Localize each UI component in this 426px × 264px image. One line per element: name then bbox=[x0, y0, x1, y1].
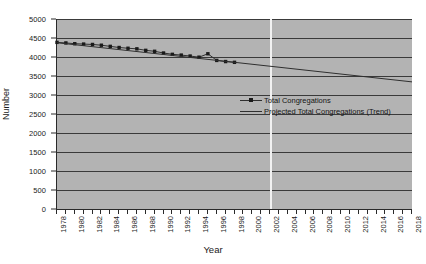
x-tick-mark bbox=[127, 210, 128, 214]
data-point-marker bbox=[100, 44, 103, 47]
x-tick-label: 1994 bbox=[201, 216, 210, 233]
x-tick-mark bbox=[92, 210, 93, 214]
x-tick-mark bbox=[109, 210, 110, 214]
x-tick-mark bbox=[136, 210, 137, 214]
x-tick-mark bbox=[100, 210, 101, 214]
data-point-marker bbox=[117, 46, 120, 49]
x-tick-label: 2000 bbox=[254, 216, 263, 233]
x-tick-mark bbox=[83, 210, 84, 214]
x-tick-mark bbox=[358, 210, 359, 214]
x-tick-label: 1980 bbox=[77, 216, 86, 233]
x-tick-label: 1988 bbox=[148, 216, 157, 233]
x-tick-mark bbox=[331, 210, 332, 214]
x-axis: 1978198019821984198619881990199219941996… bbox=[56, 210, 412, 264]
x-tick-mark bbox=[74, 210, 75, 214]
x-tick-label: 1996 bbox=[219, 216, 228, 233]
x-tick-mark bbox=[171, 210, 172, 214]
y-tick-label: 2000 bbox=[29, 129, 46, 138]
data-point-marker bbox=[55, 41, 58, 44]
y-tick-label: 500 bbox=[33, 186, 46, 195]
x-tick-label: 1978 bbox=[59, 216, 68, 233]
x-tick-mark bbox=[322, 210, 323, 214]
x-tick-mark bbox=[269, 210, 270, 214]
x-tick-mark bbox=[313, 210, 314, 214]
x-tick-mark bbox=[260, 210, 261, 214]
x-tick-mark bbox=[287, 210, 288, 214]
x-tick-mark bbox=[376, 210, 377, 214]
data-point-marker bbox=[135, 47, 138, 50]
x-tick-mark bbox=[163, 210, 164, 214]
legend-label: Total Congregations bbox=[264, 96, 331, 105]
y-tick-label: 1000 bbox=[29, 167, 46, 176]
x-tick-mark bbox=[278, 210, 279, 214]
y-tick-label: 3500 bbox=[29, 72, 46, 81]
x-tick-label: 1992 bbox=[183, 216, 192, 233]
x-tick-label: 1982 bbox=[95, 216, 104, 233]
chart-legend: Total CongregationsProjected Total Congr… bbox=[240, 95, 390, 117]
x-tick-mark bbox=[207, 210, 208, 214]
y-tick-label: 1500 bbox=[29, 148, 46, 157]
legend-item: Total Congregations bbox=[240, 95, 390, 106]
legend-swatch-icon bbox=[240, 96, 262, 105]
x-tick-label: 2010 bbox=[343, 216, 352, 233]
chart-container: 0500100015002000250030003500400045005000… bbox=[0, 0, 426, 264]
x-tick-mark bbox=[154, 210, 155, 214]
x-tick-mark bbox=[216, 210, 217, 214]
x-tick-label: 1986 bbox=[130, 216, 139, 233]
x-tick-label: 2014 bbox=[379, 216, 388, 233]
data-point-marker bbox=[109, 45, 112, 48]
x-tick-label: 2016 bbox=[396, 216, 405, 233]
x-tick-mark bbox=[402, 210, 403, 214]
x-tick-mark bbox=[251, 210, 252, 214]
x-tick-label: 1998 bbox=[237, 216, 246, 233]
x-tick-mark bbox=[225, 210, 226, 214]
legend-swatch-icon bbox=[240, 107, 262, 116]
x-tick-mark bbox=[234, 210, 235, 214]
data-point-marker bbox=[153, 50, 156, 53]
legend-item: Projected Total Congregations (Trend) bbox=[240, 106, 390, 117]
x-tick-mark bbox=[296, 210, 297, 214]
x-tick-mark bbox=[180, 210, 181, 214]
x-tick-label: 2006 bbox=[308, 216, 317, 233]
y-tick-label: 3000 bbox=[29, 91, 46, 100]
x-tick-mark bbox=[189, 210, 190, 214]
data-point-marker bbox=[206, 52, 209, 55]
x-tick-mark bbox=[198, 210, 199, 214]
y-tick-label: 4500 bbox=[29, 34, 46, 43]
x-tick-label: 2018 bbox=[414, 216, 423, 233]
x-tick-mark bbox=[242, 210, 243, 214]
x-tick-label: 1984 bbox=[112, 216, 121, 233]
x-tick-mark bbox=[411, 210, 412, 214]
x-tick-mark bbox=[349, 210, 350, 214]
x-tick-label: 2004 bbox=[290, 216, 299, 233]
data-point-marker bbox=[144, 49, 147, 52]
y-tick-label: 4000 bbox=[29, 53, 46, 62]
y-axis-title: Number bbox=[1, 88, 11, 120]
x-tick-mark bbox=[145, 210, 146, 214]
x-tick-mark bbox=[305, 210, 306, 214]
x-axis-title: Year bbox=[0, 244, 426, 255]
y-tick-label: 5000 bbox=[29, 15, 46, 24]
data-point-marker bbox=[91, 43, 94, 46]
x-tick-mark bbox=[367, 210, 368, 214]
y-tick-label: 2500 bbox=[29, 110, 46, 119]
x-tick-mark bbox=[65, 210, 66, 214]
x-tick-label: 2002 bbox=[272, 216, 281, 233]
x-tick-label: 2012 bbox=[361, 216, 370, 233]
series-line-1 bbox=[57, 43, 412, 82]
legend-label: Projected Total Congregations (Trend) bbox=[264, 107, 391, 116]
x-tick-mark bbox=[340, 210, 341, 214]
x-tick-label: 1990 bbox=[166, 216, 175, 233]
x-tick-mark bbox=[118, 210, 119, 214]
x-tick-label: 2008 bbox=[325, 216, 334, 233]
x-tick-mark bbox=[384, 210, 385, 214]
x-tick-mark bbox=[56, 210, 57, 214]
data-point-marker bbox=[126, 47, 129, 50]
x-tick-mark bbox=[393, 210, 394, 214]
y-tick-label: 0 bbox=[42, 205, 46, 214]
